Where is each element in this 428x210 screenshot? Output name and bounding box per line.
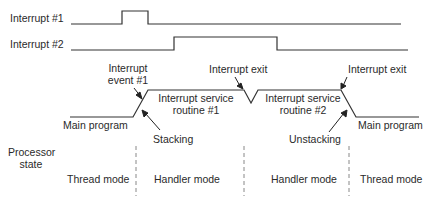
mode-thread-right: Thread mode xyxy=(360,173,422,185)
mode-handler-2: Handler mode xyxy=(271,173,337,185)
processor-trace xyxy=(70,90,419,117)
processor-state-line2: state xyxy=(8,158,54,170)
interrupt2-waveform xyxy=(71,37,408,50)
isr1-line2: routine #1 xyxy=(150,104,242,116)
mode-handler-1: Handler mode xyxy=(154,173,220,185)
unstacking-label: Unstacking xyxy=(289,133,341,145)
main-program-right-label: Main program xyxy=(358,119,423,131)
interrupt-event-line2: event #1 xyxy=(98,74,158,86)
interrupt-event-label: Interrupt event #1 xyxy=(98,62,158,86)
processor-state-line1: Processor xyxy=(8,146,54,158)
interrupt-event-arrow-icon xyxy=(134,88,142,99)
isr2-label: Interrupt service routine #2 xyxy=(257,92,349,116)
interrupt-exit-1-label: Interrupt exit xyxy=(209,63,267,75)
interrupt1-label: Interrupt #1 xyxy=(10,12,64,24)
stacking-label: Stacking xyxy=(153,133,193,145)
interrupt2-label: Interrupt #2 xyxy=(10,38,64,50)
interrupt-exit-2-label: Interrupt exit xyxy=(348,63,406,75)
isr1-line1: Interrupt service xyxy=(150,92,242,104)
mode-thread-left: Thread mode xyxy=(67,173,129,185)
isr2-line1: Interrupt service xyxy=(257,92,349,104)
interrupt1-waveform xyxy=(71,11,401,24)
processor-state-label: Processor state xyxy=(8,146,54,170)
interrupt-exit-1-arrow-icon xyxy=(235,77,243,89)
interrupt-exit-2-arrow-icon xyxy=(341,77,347,89)
isr1-label: Interrupt service routine #1 xyxy=(150,92,242,116)
interrupt-event-line1: Interrupt xyxy=(98,62,158,74)
main-program-left-label: Main program xyxy=(63,119,128,131)
isr2-line2: routine #2 xyxy=(257,104,349,116)
